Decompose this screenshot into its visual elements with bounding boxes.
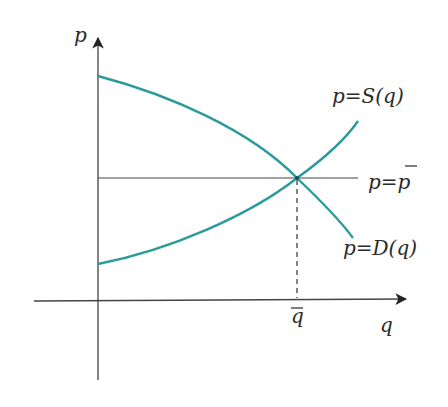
supply-demand-diagram: p q p=S(q) p=p p=D(q) q — [0, 0, 448, 407]
supply-curve — [98, 121, 358, 264]
demand-label: p=D(q) — [343, 236, 417, 260]
price-line-label: p=p — [368, 170, 411, 194]
q-axis-label: q — [380, 313, 393, 337]
equilibrium-point — [295, 176, 299, 180]
q-axis — [34, 299, 406, 301]
supply-label: p=S(q) — [332, 84, 404, 108]
demand-curve — [98, 76, 353, 238]
p-axis-label: p — [74, 23, 87, 47]
